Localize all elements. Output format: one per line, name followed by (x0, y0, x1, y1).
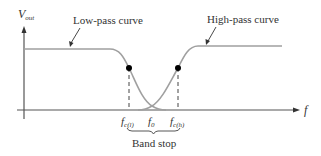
high-pass-pointer (208, 27, 216, 41)
x-axis-label: f (304, 103, 309, 117)
low-pass-label: Low-pass curve (73, 14, 143, 26)
tick-fc-high: fc(h) (170, 115, 185, 129)
axes (17, 26, 300, 119)
low-pass-pointer (71, 28, 80, 43)
low-pass-curve (24, 49, 166, 110)
x-axis-arrow-icon (293, 108, 300, 113)
tick-fc-low: fc(l) (121, 115, 134, 129)
tick-f0: f0 (148, 115, 155, 129)
band-stop-label: Band stop (132, 137, 177, 149)
cutoff-low-dot-icon (126, 65, 132, 71)
band-stop-brace (127, 128, 180, 134)
high-pass-label: High-pass curve (207, 13, 279, 25)
y-axis-arrow-icon (22, 26, 27, 33)
y-axis-label: Vout (18, 7, 35, 22)
band-stop-diagram: Vout f Low-pass curve High-pass curve fc… (0, 0, 321, 156)
high-pass-curve (138, 46, 282, 110)
cutoff-high-dot-icon (175, 65, 181, 71)
high-pass-arrow-icon (206, 39, 211, 45)
